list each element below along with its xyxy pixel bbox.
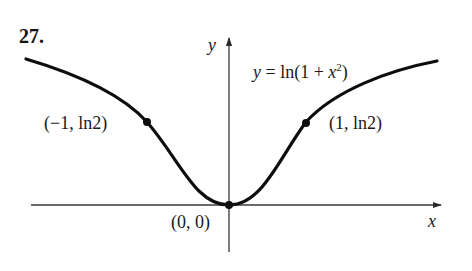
equation-eq: = ln(1 + bbox=[261, 62, 328, 82]
equation-lhs: y bbox=[253, 62, 261, 82]
point-label-neg1-ln2: (−1, ln2) bbox=[44, 114, 107, 132]
graph-canvas bbox=[0, 0, 472, 271]
equation-label: y = ln(1 + x2) bbox=[253, 62, 348, 81]
point-1-ln2 bbox=[302, 119, 310, 127]
point-label-origin: (0, 0) bbox=[171, 213, 210, 231]
x-axis-label: x bbox=[428, 212, 436, 230]
point-origin bbox=[225, 201, 233, 209]
point-neg1-ln2 bbox=[143, 118, 151, 126]
point-label-1-ln2: (1, ln2) bbox=[329, 114, 382, 132]
equation-close: ) bbox=[342, 62, 348, 82]
y-axis-label: y bbox=[208, 36, 216, 54]
problem-number: 27. bbox=[19, 25, 44, 48]
function-graph-figure: 27. y x y = ln(1 + x2) (−1, ln2) (0, 0) … bbox=[0, 0, 472, 271]
